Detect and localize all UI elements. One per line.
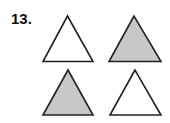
triangle-bottom-right bbox=[110, 70, 161, 115]
triangle-top-left bbox=[43, 16, 93, 62]
triangle-grid bbox=[0, 0, 170, 123]
triangle-bottom-left bbox=[43, 70, 93, 115]
triangle-top-right bbox=[109, 16, 161, 62]
